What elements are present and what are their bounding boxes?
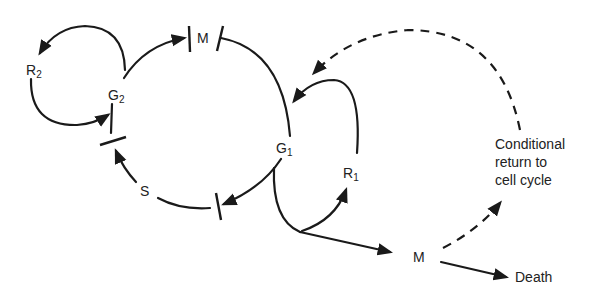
note-line-3: cell cycle	[495, 172, 552, 188]
node-m-bottom: M	[413, 249, 425, 265]
node-g1: G1	[276, 140, 293, 158]
node-r1: R1	[343, 165, 359, 183]
arrow-r1-to-g1	[294, 80, 358, 153]
arc-m-to-g1	[221, 38, 290, 136]
arc-barrier-to-s	[158, 198, 210, 208]
node-death: Death	[515, 269, 552, 285]
g2-barrier	[100, 137, 126, 145]
node-s: S	[140, 183, 149, 199]
node-r2: R2	[26, 62, 42, 80]
node-g2: G2	[108, 87, 125, 105]
arrow-m-to-death	[441, 262, 506, 277]
s-barrier-right	[216, 193, 221, 220]
m-barrier-left	[189, 26, 190, 52]
arrow-branch-to-r1	[302, 190, 346, 231]
arrow-g2-to-m	[124, 38, 184, 78]
arrow-g2-to-r2	[40, 26, 125, 70]
note-line-1: Conditional	[495, 136, 565, 152]
arrow-branch-to-m	[300, 232, 390, 252]
dashed-return-to-g1	[314, 30, 520, 130]
node-m-top: M	[197, 30, 209, 46]
arrow-g1-to-s-barrier	[224, 159, 281, 204]
dashed-m-to-return	[443, 203, 500, 248]
line-g1-to-branch	[274, 168, 300, 232]
arc-barrier-to-g2	[111, 104, 112, 133]
cell-cycle-diagram: R2 G2 M G1 S R1 M Death Conditional retu…	[0, 0, 608, 293]
arrow-s-to-g2-barrier	[116, 151, 136, 182]
arrow-r2-to-g2	[31, 79, 108, 125]
note-line-2: return to	[495, 154, 547, 170]
